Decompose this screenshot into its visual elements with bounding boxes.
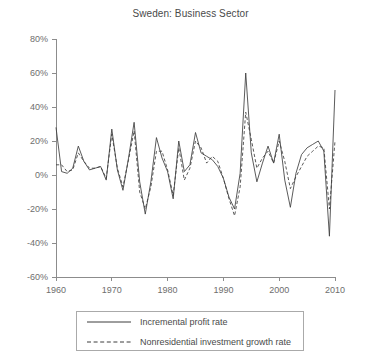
- y-tick-label: -20%: [27, 204, 48, 214]
- y-tick-label: 0%: [35, 170, 48, 180]
- legend-swatch-solid-line-icon: [85, 317, 133, 327]
- y-tick-label: -40%: [27, 238, 48, 248]
- x-axis-tick-group: 196019701980199020002010: [46, 277, 345, 295]
- y-tick-label: 20%: [30, 136, 48, 146]
- legend-label-nonresidential-investment-growth-rate: Nonresidential investment growth rate: [133, 337, 291, 347]
- legend-swatch-dashed-line-icon: [85, 337, 133, 347]
- legend-label-incremental-profit-rate: Incremental profit rate: [133, 317, 228, 327]
- legend-item-dashed: Nonresidential investment growth rate: [77, 332, 303, 352]
- chart-legend: Incremental profit rate Nonresidential i…: [76, 311, 304, 351]
- y-tick-label: 40%: [30, 102, 48, 112]
- x-tick-label: 1960: [46, 285, 66, 295]
- x-tick-label: 1980: [158, 285, 178, 295]
- y-axis-tick-group: -60%-40%-20%0%20%40%60%80%: [27, 34, 56, 282]
- x-tick-label: 1990: [213, 285, 233, 295]
- x-tick-label: 2010: [325, 285, 345, 295]
- chart-plot-area: -60%-40%-20%0%20%40%60%80% 1960197019801…: [0, 0, 381, 362]
- chart-container: Sweden: Business Sector -60%-40%-20%0%20…: [0, 0, 381, 362]
- y-tick-label: 60%: [30, 68, 48, 78]
- legend-item-solid: Incremental profit rate: [77, 312, 303, 332]
- x-tick-label: 1970: [102, 285, 122, 295]
- series-nonresidential-investment-growth-rate: [56, 112, 335, 216]
- y-tick-label: -60%: [27, 272, 48, 282]
- x-tick-label: 2000: [269, 285, 289, 295]
- y-tick-label: 80%: [30, 34, 48, 44]
- series-incremental-profit-rate: [56, 73, 335, 236]
